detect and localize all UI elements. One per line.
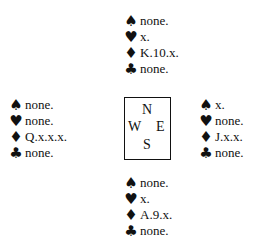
east-clubs-holding: none.: [215, 145, 244, 161]
diamond-icon: ♦: [9, 129, 23, 145]
south-hearts-holding: x.: [140, 191, 150, 207]
north-clubs-holding: none.: [140, 61, 169, 77]
compass-south: S: [143, 138, 151, 152]
spade-icon: ♠: [9, 97, 23, 113]
heart-icon: ♥: [199, 113, 213, 129]
compass-west: W: [128, 120, 141, 134]
club-icon: ♣: [199, 145, 213, 161]
west-hearts-holding: none.: [25, 113, 54, 129]
east-spades-holding: x.: [215, 97, 225, 113]
diamond-icon: ♦: [124, 45, 138, 61]
spade-icon: ♠: [124, 13, 138, 29]
compass-box: N W E S: [124, 97, 171, 160]
spade-icon: ♠: [199, 97, 213, 113]
east-hearts-holding: none.: [215, 113, 244, 129]
south-diamonds-holding: A.9.x.: [140, 207, 172, 223]
heart-icon: ♥: [124, 29, 138, 45]
spade-icon: ♠: [124, 175, 138, 191]
club-icon: ♣: [124, 61, 138, 77]
heart-icon: ♥: [9, 113, 23, 129]
west-clubs-holding: none.: [25, 145, 54, 161]
east-diamonds-holding: J.x.x.: [215, 129, 243, 145]
west-spades-holding: none.: [25, 97, 54, 113]
south-spades-holding: none.: [140, 175, 169, 191]
club-icon: ♣: [9, 145, 23, 161]
diamond-icon: ♦: [124, 207, 138, 223]
heart-icon: ♥: [124, 191, 138, 207]
diamond-icon: ♦: [199, 129, 213, 145]
north-hearts-holding: x.: [140, 29, 150, 45]
compass-north: N: [142, 103, 152, 117]
west-diamonds-holding: Q.x.x.x.: [25, 129, 67, 145]
north-diamonds-holding: K.10.x.: [140, 45, 179, 61]
club-icon: ♣: [124, 223, 138, 239]
south-clubs-holding: none.: [140, 223, 169, 239]
compass-east: E: [156, 120, 165, 134]
north-spades-holding: none.: [140, 13, 169, 29]
